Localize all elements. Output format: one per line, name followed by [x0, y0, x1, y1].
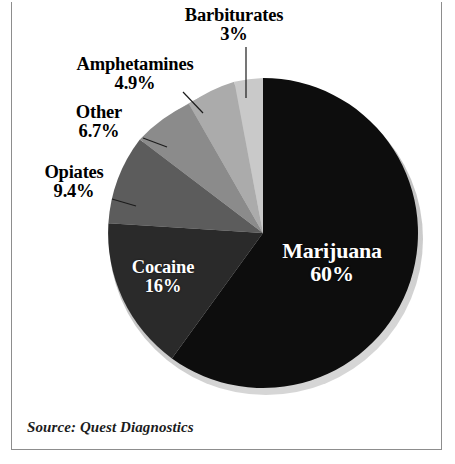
pie-label-marijuana: Marijuana 60%: [258, 240, 406, 285]
pie-label-amphetamines-name: Amphetamines: [56, 55, 214, 74]
pie-label-barbiturates: Barbiturates 3%: [171, 6, 297, 44]
pie-label-other: Other 6.7%: [51, 103, 147, 141]
pie-label-cocaine: Cocaine 16%: [103, 258, 223, 296]
pie-label-amphetamines-value: 4.9%: [56, 74, 214, 93]
pie-label-marijuana-value: 60%: [258, 263, 406, 286]
pie-label-amphetamines: Amphetamines 4.9%: [56, 55, 214, 93]
pie-label-cocaine-value: 16%: [103, 277, 223, 296]
pie-label-barbiturates-name: Barbiturates: [171, 6, 297, 25]
pie-label-opiates-value: 9.4%: [22, 182, 126, 201]
pie-label-opiates-name: Opiates: [22, 163, 126, 182]
chart-page: Barbiturates 3% Amphetamines 4.9% Other …: [0, 0, 455, 464]
pie-label-other-value: 6.7%: [51, 122, 147, 141]
pie-label-cocaine-name: Cocaine: [103, 258, 223, 277]
pie-label-marijuana-name: Marijuana: [258, 240, 406, 263]
pie-label-opiates: Opiates 9.4%: [22, 163, 126, 201]
pie-label-other-name: Other: [51, 103, 147, 122]
pie-chart: Barbiturates 3% Amphetamines 4.9% Other …: [0, 0, 455, 464]
source-note: Source: Quest Diagnostics: [27, 419, 194, 436]
pie-label-barbiturates-value: 3%: [171, 25, 297, 44]
